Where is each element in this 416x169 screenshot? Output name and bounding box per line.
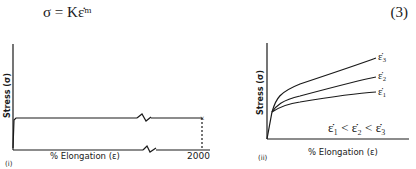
curve-label-2: ε̇₂ <box>378 69 387 81</box>
svg-text:×: × <box>200 114 205 123</box>
end-value-i: 2000 <box>187 151 210 161</box>
rate-relation: ε̇₁ < ε̇₂ < ε̇₃ <box>328 120 386 135</box>
ylabel-ii: Stress (σ) <box>256 70 265 115</box>
curve-label-3: ε̇₃ <box>378 50 387 62</box>
panel-label-i: (i) <box>5 160 13 168</box>
curve-label-1: ε̇₁ <box>378 85 387 97</box>
xlabel-ii: % Elongation (ε) <box>308 147 378 157</box>
ylabel-i: Stress (σ) <box>3 73 12 118</box>
panel-label-ii: (ii) <box>258 154 268 162</box>
figures: × Stress (σ) % Elongation (ε) (i) 2000 S… <box>0 0 416 169</box>
figure-i: × <box>13 44 210 152</box>
xlabel-i: % Elongation (ε) <box>50 151 120 161</box>
